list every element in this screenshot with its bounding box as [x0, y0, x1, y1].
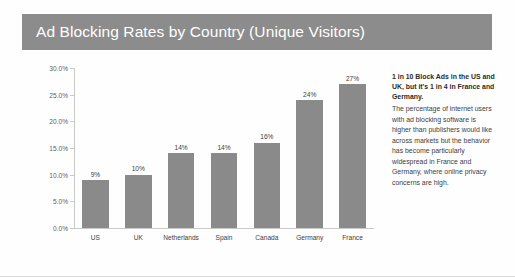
bar-group: 24% — [296, 68, 323, 228]
bar — [339, 84, 366, 228]
chart-page: Ad Blocking Rates by Country (Unique Vis… — [0, 0, 515, 277]
bar-group: 9% — [82, 68, 109, 228]
bar-chart: 0.0%5.0%10.0%15.0%20.0%25.0%30.0% 9%10%1… — [22, 58, 382, 263]
y-axis-tick-label: 5.0% — [22, 198, 68, 205]
bar-value-label: 9% — [91, 171, 101, 178]
annotation-block: 1 in 10 Block Ads in the US and UK, but … — [392, 72, 496, 188]
x-axis-line — [74, 228, 374, 229]
bar — [296, 100, 323, 228]
bar-value-label: 14% — [217, 144, 230, 151]
bar-value-label: 24% — [303, 91, 316, 98]
bar — [254, 143, 281, 228]
y-axis-tick-mark — [70, 228, 74, 229]
x-axis-category-label: France — [331, 234, 374, 241]
page-title: Ad Blocking Rates by Country (Unique Vis… — [22, 23, 365, 41]
chart-title-band: Ad Blocking Rates by Country (Unique Vis… — [22, 14, 492, 50]
x-axis-category-label: UK — [117, 234, 160, 241]
x-axis-category-label: Canada — [245, 234, 288, 241]
bar-group: 27% — [339, 68, 366, 228]
y-axis-tick-label: 10.0% — [22, 171, 68, 178]
bar — [82, 180, 109, 228]
y-axis-tick-label: 25.0% — [22, 91, 68, 98]
bar — [211, 153, 238, 228]
y-axis-tick-label: 20.0% — [22, 118, 68, 125]
annotation-headline: 1 in 10 Block Ads in the US and UK, but … — [392, 72, 496, 101]
bar-value-label: 10% — [132, 165, 145, 172]
x-axis-category-label: Spain — [203, 234, 246, 241]
bar-value-label: 27% — [346, 75, 359, 82]
annotation-body: The percentage of internet users with ad… — [392, 104, 496, 188]
x-axis-category-label: US — [74, 234, 117, 241]
bar — [125, 175, 152, 228]
x-axis-category-label: Germany — [288, 234, 331, 241]
y-axis-tick-label: 0.0% — [22, 225, 68, 232]
bar — [168, 153, 195, 228]
bar-value-label: 14% — [175, 144, 188, 151]
bar-group: 10% — [125, 68, 152, 228]
x-axis-category-label: Netherlands — [160, 234, 203, 241]
y-axis-tick-label: 15.0% — [22, 145, 68, 152]
bar-value-label: 16% — [260, 133, 273, 140]
y-axis-tick-label: 30.0% — [22, 65, 68, 72]
plot-area: 9%10%14%14%16%24%27% — [74, 68, 374, 228]
bar-group: 14% — [211, 68, 238, 228]
bar-group: 14% — [168, 68, 195, 228]
bar-group: 16% — [254, 68, 281, 228]
